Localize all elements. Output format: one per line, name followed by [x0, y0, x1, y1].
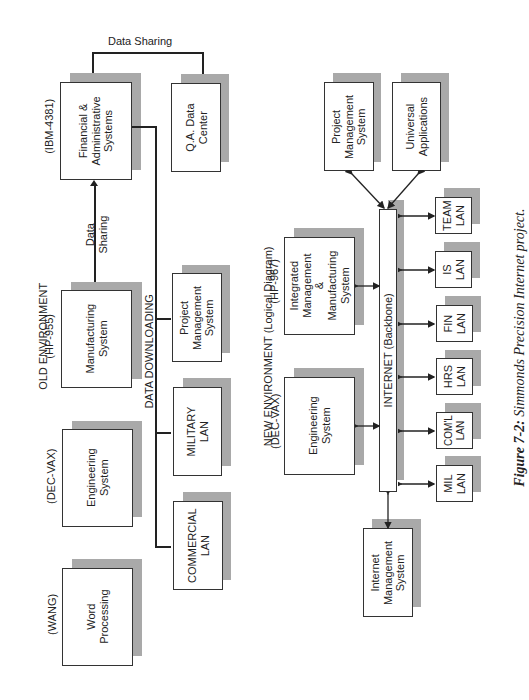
hp-967-platform-label: (HP-967): [268, 259, 281, 304]
internet-management-system-box: Internet Management System: [363, 528, 413, 617]
figure-caption: Figure 7-2: Simmonds Precision Internet …: [496, 209, 528, 494]
new-engineering-connector: [355, 421, 381, 431]
old-project-management-box: Project Management System: [172, 273, 222, 362]
qa-data-center-box: Q.A. Data Center: [171, 83, 221, 172]
new-project-management-box: Project Management System: [324, 82, 374, 171]
commercial-lan-label: COMMERCIAL LAN: [185, 508, 210, 583]
branch-to-military: [155, 432, 171, 434]
integrated-mfg-connector: [355, 281, 381, 291]
hrs-lan-label: HRS LAN: [442, 365, 467, 388]
integrated-mfg-system-label: Integrated Management & Manufacturing Sy…: [288, 251, 351, 321]
branch-to-commercial: [155, 546, 171, 548]
old-dec-vax-platform-label: (DEC-VAX): [45, 449, 58, 504]
commercial-lan-box: COMMERCIAL LAN: [173, 501, 223, 590]
fin-lan-box: FIN LAN: [436, 305, 473, 342]
hrs-lan-box: HRS LAN: [436, 358, 473, 395]
financial-admin-systems-label: Financial & Administrative Systems: [77, 96, 115, 165]
internet-backbone-box: INTERNET (Backbone): [379, 209, 397, 492]
internet-management-system-label: Internet Management System: [369, 540, 407, 604]
qa-data-center-label: Q.A. Data Center: [183, 103, 208, 151]
new-engineering-system-box: Engineering System: [284, 377, 355, 475]
word-processing-box: Word Processing: [62, 568, 133, 666]
branch-to-pms: [155, 318, 171, 320]
is-lan-label: IS LAN: [441, 259, 466, 280]
fin-mfg-data-sharing-label: Data Sharing: [84, 216, 109, 254]
universal-applications-box: Universal Applications: [392, 82, 441, 171]
universal-applications-label: Universal Applications: [404, 97, 429, 156]
new-dec-vax-platform-label: (DEC-VAX): [269, 394, 282, 449]
old-project-management-label: Project Management System: [178, 285, 216, 349]
internet-management-connector: [383, 492, 393, 530]
military-lan-label: MILITARY LAN: [185, 407, 210, 457]
old-engineering-system-label: Engineering System: [85, 449, 110, 508]
old-engineering-system-box: Engineering System: [62, 429, 133, 527]
team-lan-box: TEAM LAN: [435, 197, 472, 234]
financial-admin-systems-box: Financial & Administrative Systems: [60, 82, 132, 180]
old-environment-title: OLD ENVIRONMENT: [37, 283, 50, 390]
fin-lan-label: FIN LAN: [442, 313, 467, 334]
ibm-4381-platform-label: (IBM-4381): [43, 99, 56, 154]
new-project-management-label: Project Management System: [330, 94, 368, 158]
figure-caption-text: Simmonds Precision Internet project.: [513, 209, 528, 421]
data-sharing-connector-h: [92, 52, 203, 54]
download-trunk-h: [132, 126, 156, 128]
figure-number: Figure 7-2:: [513, 420, 528, 487]
manufacturing-system-box: Manufacturing System: [61, 290, 132, 388]
integrated-mfg-system-box: Integrated Management & Manufacturing Sy…: [284, 237, 355, 335]
coml-lan-box: COM'L LAN: [436, 412, 473, 449]
top-data-sharing-label: Data Sharing: [108, 35, 172, 47]
lan-connectors: [398, 200, 438, 500]
manufacturing-system-label: Manufacturing System: [84, 304, 109, 374]
military-lan-box: MILITARY LAN: [173, 387, 222, 476]
arrow-head-icon: [90, 180, 98, 186]
word-processing-label: Word Processing: [85, 590, 110, 644]
is-lan-box: IS LAN: [435, 251, 472, 288]
data-downloading-label: DATA DOWNLOADING: [143, 294, 156, 409]
new-engineering-system-label: Engineering System: [307, 397, 332, 456]
mil-lan-label: MIL LAN: [442, 473, 467, 494]
coml-lan-label: COM'L LAN: [443, 415, 466, 446]
mil-lan-box: MIL LAN: [436, 465, 473, 502]
internet-backbone-label: INTERNET (Backbone): [382, 293, 395, 407]
wang-platform-label: (WANG): [46, 594, 59, 635]
team-lan-label: TEAM LAN: [441, 200, 466, 231]
